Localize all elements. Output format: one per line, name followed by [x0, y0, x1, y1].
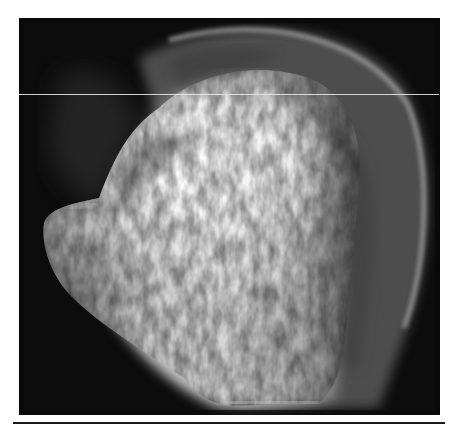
- scan-line-artifact: [19, 94, 439, 95]
- radiograph-graphic: [19, 18, 440, 415]
- radiograph-image: [19, 18, 440, 415]
- caption-divider: [13, 422, 445, 424]
- caption-area: [13, 427, 445, 433]
